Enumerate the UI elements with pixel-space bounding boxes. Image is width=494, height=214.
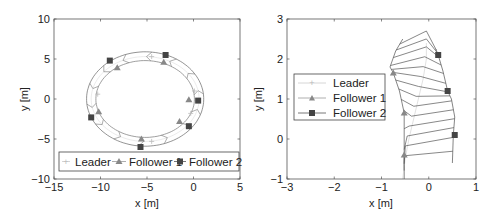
- y-tick-label: −1: [270, 173, 283, 185]
- follower1-marker: [138, 136, 145, 142]
- figure: −15−10−505−10−50510 x [m] y [m] + Leader…: [0, 0, 494, 214]
- legend-follower2-label: Follower 2: [189, 156, 242, 168]
- follower1-marker: [185, 96, 192, 102]
- plot-circle-ylabel: y [m]: [18, 87, 30, 111]
- y-tick-label: 5: [44, 53, 50, 65]
- plot-circle: −15−10−505−10−50510 x [m] y [m] + Leader…: [18, 13, 243, 209]
- formation-chevron: [404, 110, 454, 116]
- plot-circle-content: [87, 52, 204, 150]
- formation-chevron: [391, 67, 443, 74]
- y-tick-label: 10: [38, 13, 50, 25]
- x-tick-label: 0: [426, 181, 432, 193]
- y-tick-label: 0: [44, 93, 50, 105]
- legend-follower2-marker: [309, 110, 315, 116]
- y-tick-label: −10: [31, 173, 50, 185]
- follower2-trajectory: [87, 52, 204, 146]
- plot-zoom-content: [390, 31, 458, 179]
- x-tick-label: 5: [237, 181, 243, 193]
- legend-follower2-label: Follower 2: [333, 107, 386, 119]
- follower2-marker: [88, 114, 94, 120]
- formation-chevron: [404, 151, 453, 170]
- plot-circle-legend: + Leader Follower 1 Follower 2: [59, 152, 242, 171]
- leader-trajectory: [403, 43, 427, 179]
- legend-follower1-label: Follower 1: [333, 92, 386, 104]
- follower2-trajectory: [436, 49, 455, 163]
- formation-chevron: [404, 137, 453, 163]
- follower1-trajectory: [390, 39, 404, 179]
- follower1-marker: [160, 59, 167, 65]
- plot-zoom-ylabel: y [m]: [252, 87, 264, 111]
- follower1-marker: [114, 64, 121, 70]
- x-tick-label: −5: [141, 181, 154, 193]
- formation-chevron: [401, 99, 452, 106]
- follower1-marker: [176, 118, 183, 124]
- y-tick-label: 2: [277, 53, 283, 65]
- legend-leader-label: Leader: [75, 156, 111, 168]
- x-tick-label: −1: [375, 181, 388, 193]
- follower2-marker: [137, 144, 143, 150]
- formation-chevron: [187, 73, 195, 78]
- follower2-marker: [445, 88, 451, 94]
- follower2-marker: [186, 123, 192, 129]
- follower2-marker: [107, 58, 113, 64]
- x-tick-label: −10: [91, 181, 110, 193]
- plot-circle-xlabel: x [m]: [135, 197, 159, 209]
- legend-leader-marker: +: [309, 78, 314, 88]
- plot-zoom-legend: + Leader Follower 1 Follower 2: [294, 74, 386, 120]
- formation-chevron: [192, 109, 201, 114]
- formation-chevron: [391, 57, 442, 66]
- x-tick-label: −2: [328, 181, 341, 193]
- formation-chevron: [95, 119, 103, 124]
- leader-marker: [149, 139, 154, 144]
- follower2-marker: [195, 98, 201, 104]
- plot-zoom-xlabel: x [m]: [369, 197, 393, 209]
- legend-entry-leader: + Leader: [298, 77, 369, 89]
- legend-follower2-marker: [177, 159, 183, 165]
- y-tick-label: 1: [277, 93, 283, 105]
- follower1-trajectory: [96, 61, 194, 138]
- x-tick-label: 1: [473, 181, 479, 193]
- x-tick-label: 0: [190, 181, 196, 193]
- y-tick-label: −5: [37, 133, 50, 145]
- formation-chevron: [399, 89, 450, 96]
- legend-leader-marker: +: [63, 157, 68, 167]
- follower1-marker: [95, 108, 102, 114]
- follower2-marker: [163, 52, 169, 58]
- y-tick-label: 3: [277, 13, 283, 25]
- leader-marker: [149, 54, 154, 59]
- legend-leader-label: Leader: [333, 77, 369, 89]
- y-tick-label: 0: [277, 133, 283, 145]
- plot-zoom: −3−2−101−10123 x [m] y [m] + Leader Foll…: [252, 13, 479, 209]
- leader-trajectory: [91, 57, 199, 142]
- follower2-marker: [452, 132, 458, 138]
- formation-chevron: [90, 83, 99, 88]
- follower2-marker: [435, 52, 441, 58]
